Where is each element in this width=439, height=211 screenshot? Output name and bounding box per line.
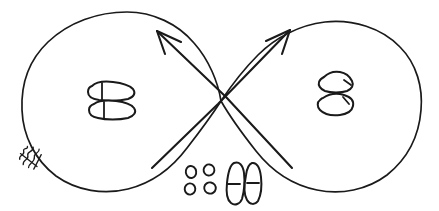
footprint-outline (88, 82, 134, 101)
arrow-up-left (157, 31, 292, 168)
footprint-right-upper (319, 72, 353, 93)
center-bottom-footprints (227, 162, 262, 204)
footprint-left-upper (88, 82, 134, 101)
diagram-root: Figure-eight footwork path diagram Hand-… (0, 0, 439, 211)
footprint-outline (89, 101, 135, 120)
toe-dot (203, 181, 216, 194)
figure-eight-canvas (0, 0, 439, 211)
toe-dot (185, 165, 197, 178)
footprint-right-lower (318, 94, 353, 115)
toe-dot-cluster (184, 164, 216, 195)
arrow-up-left-shaft (159, 33, 292, 168)
right-loop-footprints (318, 72, 353, 116)
toe-dot (184, 183, 195, 195)
toe-dot (203, 164, 215, 176)
footprint-center-left (227, 162, 245, 204)
left-loop-footprints (88, 82, 135, 120)
footprint-center-right (245, 163, 262, 204)
footprint-left-lower (89, 101, 135, 120)
footprint-outline (318, 94, 353, 115)
